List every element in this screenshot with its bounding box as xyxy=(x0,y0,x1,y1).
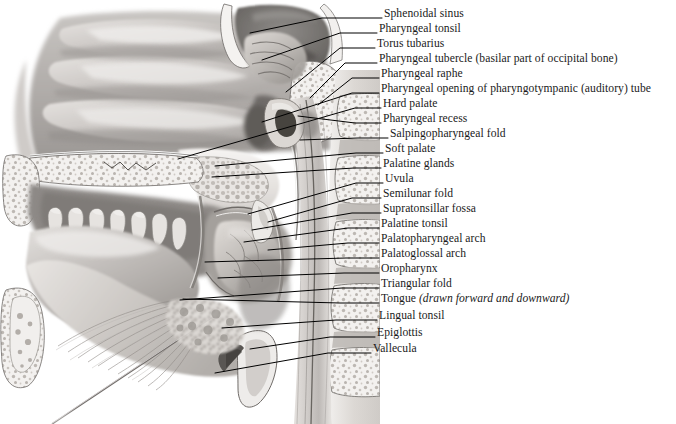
label-sphenoidal-sinus: Sphenoidal sinus xyxy=(384,8,464,20)
label-pharyngeal-tubercle: Pharyngeal tubercle (basilar part of occ… xyxy=(379,53,618,65)
label-text: Salpingopharyngeal fold xyxy=(390,127,506,140)
label-torus-tubarius: Torus tubarius xyxy=(377,38,444,50)
label-text: Soft palate xyxy=(385,142,436,155)
label-lingual-tonsil: Lingual tonsil xyxy=(379,310,445,322)
label-text: Pharyngeal raphe xyxy=(381,67,463,80)
label-soft-palate: Soft palate xyxy=(385,143,436,155)
illustration-page: Sphenoidal sinusPharyngeal tonsilTorus t… xyxy=(0,0,676,424)
label-text: Semilunar fold xyxy=(383,187,453,200)
label-text: Sphenoidal sinus xyxy=(384,7,464,20)
label-pharyngeal-tonsil: Pharyngeal tonsil xyxy=(379,23,461,35)
label-text: Pharyngeal tubercle (basilar part of occ… xyxy=(379,52,618,65)
label-pharyngeal-opening: Pharyngeal opening of pharyngotympanic (… xyxy=(381,83,651,95)
label-text: Hard palate xyxy=(383,97,437,110)
label-palatoglossal-arch: Palatoglossal arch xyxy=(381,248,466,260)
label-text: Palatopharyngeal arch xyxy=(381,232,486,245)
label-semilunar-fold: Semilunar fold xyxy=(383,188,453,200)
label-text: Vallecula xyxy=(373,342,417,355)
label-palatine-glands: Palatine glands xyxy=(383,158,454,170)
label-uvula: Uvula xyxy=(385,173,414,185)
label-tongue: Tongue (drawn forward and downward) xyxy=(381,293,569,305)
label-hard-palate: Hard palate xyxy=(383,98,437,110)
label-text: Lingual tonsil xyxy=(379,309,445,322)
label-salpingopharyngeal-fold: Salpingopharyngeal fold xyxy=(390,128,506,140)
label-palatopharyngeal-arch: Palatopharyngeal arch xyxy=(381,233,486,245)
label-vallecula: Vallecula xyxy=(373,343,417,355)
label-oropharynx: Oropharynx xyxy=(381,263,438,275)
label-text-italic: (drawn forward and downward) xyxy=(419,292,570,305)
label-text: Tongue xyxy=(381,292,419,305)
label-text: Palatine tonsil xyxy=(381,217,448,230)
label-text: Triangular fold xyxy=(381,277,452,290)
label-text: Oropharynx xyxy=(381,262,438,275)
label-text: Torus tubarius xyxy=(377,37,444,50)
label-text: Supratonsillar fossa xyxy=(383,202,476,215)
label-pharyngeal-raphe: Pharyngeal raphe xyxy=(381,68,463,80)
label-epiglottis: Epiglottis xyxy=(377,327,423,339)
label-triangular-fold: Triangular fold xyxy=(381,278,452,290)
label-text: Uvula xyxy=(385,172,414,185)
label-text: Pharyngeal recess xyxy=(383,112,467,125)
label-pharyngeal-recess: Pharyngeal recess xyxy=(383,113,467,125)
label-text: Pharyngeal tonsil xyxy=(379,22,461,35)
label-text: Palatine glands xyxy=(383,157,454,170)
label-text: Epiglottis xyxy=(377,326,423,339)
label-palatine-tonsil: Palatine tonsil xyxy=(381,218,448,230)
label-supratonsillar-fossa: Supratonsillar fossa xyxy=(383,203,476,215)
label-text: Palatoglossal arch xyxy=(381,247,466,260)
label-list: Sphenoidal sinusPharyngeal tonsilTorus t… xyxy=(0,0,676,424)
label-text: Pharyngeal opening of pharyngotympanic (… xyxy=(381,82,651,95)
